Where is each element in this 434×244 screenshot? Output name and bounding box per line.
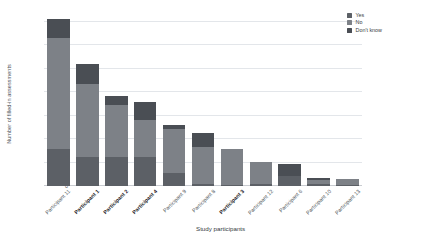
bar-segment[interactable] [221,149,244,184]
x-tick-label: Participant 9 [162,188,188,214]
bar-segment[interactable] [163,173,186,186]
legend-item[interactable]: No [347,20,382,25]
legend-swatch-icon [347,20,352,25]
bar-segment[interactable] [307,184,330,186]
bar-column[interactable] [192,133,215,186]
x-axis-title: Study participants [196,225,245,232]
bar-segment[interactable] [105,157,128,186]
x-axis-tick-labels: Participant 11Participant 1Participant 2… [44,188,362,244]
legend-item[interactable]: Yes [347,13,382,18]
bar-column[interactable] [105,96,128,186]
x-tick-label: Participant 13 [333,188,361,216]
x-tick-label: Participant 8 [191,188,217,214]
bar-segment[interactable] [76,64,99,84]
plot-area [44,22,362,186]
bar-column[interactable] [76,64,99,186]
bar-column[interactable] [336,179,359,186]
bar-segment[interactable] [47,19,70,39]
x-tick-label: Participant 1 [73,188,100,215]
bar-segment[interactable] [47,149,70,186]
bar-segment[interactable] [336,185,359,186]
bar-segment[interactable] [163,129,186,174]
x-tick-label: Participant 2 [102,188,129,215]
bar-segment[interactable] [76,84,99,157]
legend-label: Don't know [356,28,383,33]
bar-column[interactable] [250,162,273,186]
bar-segment[interactable] [134,102,157,120]
bar-segment[interactable] [134,120,157,157]
x-tick-label: Participant 4 [131,188,158,215]
bar-column[interactable] [278,164,301,186]
legend-swatch-icon [347,13,352,18]
bar-segment[interactable] [192,133,215,147]
bar-column[interactable] [47,19,70,186]
x-tick-label: Participant 11 [44,188,71,215]
bar-segment[interactable] [192,147,215,184]
bar-column[interactable] [163,125,186,186]
bar-segment[interactable] [221,185,244,186]
bar-segment[interactable] [278,164,301,176]
bar-column[interactable] [307,178,330,186]
chart-legend: YesNoDon't know [347,13,382,33]
legend-swatch-icon [347,28,352,33]
bar-segment[interactable] [192,184,215,186]
bar-segment[interactable] [105,105,128,157]
bar-segment[interactable] [250,162,273,184]
x-tick-label: Participant 10 [304,188,332,216]
bar-segment[interactable] [47,38,70,148]
legend-item[interactable]: Don't know [347,28,382,33]
x-tick-label: Participant 6 [277,188,303,214]
bar-column[interactable] [134,102,157,186]
bar-segment[interactable] [134,157,157,186]
bar-segment[interactable] [250,184,273,186]
bar-segment[interactable] [105,96,128,106]
chart-root: Number of filled-in assessments 05010015… [0,0,434,244]
bar-column[interactable] [221,149,244,186]
x-tick-label: Participant 3 [218,188,245,215]
bar-segment[interactable] [278,176,301,186]
x-tick-label: Participant 12 [246,188,274,216]
bar-segment[interactable] [76,157,99,186]
legend-label: Yes [356,13,365,18]
bar-series-group [44,22,362,186]
legend-label: No [356,20,363,25]
